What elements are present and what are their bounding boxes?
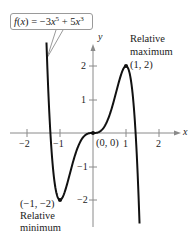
x-axis-label: x — [183, 127, 187, 137]
relative-min-point — [58, 198, 62, 202]
callout-pointer — [47, 30, 63, 58]
y-tick-label: −1 — [77, 162, 88, 172]
y-axis-label: y — [98, 32, 102, 42]
exp-1: 5 — [56, 15, 60, 23]
x-tick-label: −2 — [19, 139, 30, 149]
min-point-label: (−1, −2) — [20, 198, 55, 210]
origin-label: (0, 0) — [96, 137, 119, 149]
origin-point — [91, 131, 95, 135]
x-tick-label: −1 — [53, 139, 64, 149]
function-name: f — [14, 16, 17, 27]
x-tick-label: 1 — [123, 139, 128, 149]
function-label: f(x) = −3x5 + 5x3 — [14, 16, 84, 27]
y-axis-arrow-icon — [91, 44, 96, 51]
max-point-label: (1, 2) — [130, 59, 153, 71]
min-label-line1: Relative — [20, 210, 55, 222]
max-label-line2: maximum — [130, 46, 173, 58]
y-tick-label: 1 — [81, 95, 86, 105]
exp-2: 3 — [80, 15, 84, 23]
operator: + — [62, 16, 68, 27]
relative-max-point — [124, 64, 128, 68]
max-label-line1: Relative — [130, 33, 165, 45]
coef-1: −3 — [40, 16, 51, 27]
function-var: x — [20, 16, 25, 27]
min-label-line2: minimum — [20, 222, 61, 234]
y-tick-label: −2 — [77, 195, 88, 205]
function-callout: f(x) = −3x5 + 5x3 — [10, 13, 93, 30]
x-tick-label: 2 — [156, 139, 161, 149]
x-axis-arrow-icon — [174, 131, 181, 136]
y-tick-label: 2 — [81, 61, 86, 71]
